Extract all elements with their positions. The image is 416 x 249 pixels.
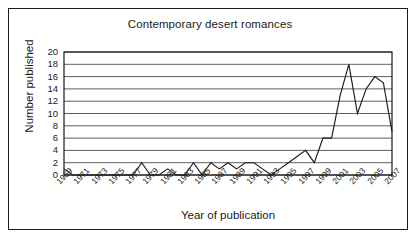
plot-area	[0, 0, 416, 249]
y-tick-label: 16	[36, 72, 58, 81]
y-tick-label: 14	[36, 84, 58, 93]
data-series-line	[64, 64, 392, 175]
y-tick-label: 2	[36, 158, 58, 167]
y-tick-label: 10	[36, 109, 58, 118]
chart-figure: Contemporary desert romances Number publ…	[0, 0, 416, 249]
y-tick-label: 12	[36, 96, 58, 105]
y-tick-label: 18	[36, 59, 58, 68]
y-tick-label: 4	[36, 145, 58, 154]
y-tick-label: 6	[36, 133, 58, 142]
y-tick-label: 20	[36, 47, 58, 56]
y-tick-label: 8	[36, 121, 58, 130]
gridlines	[64, 52, 392, 175]
